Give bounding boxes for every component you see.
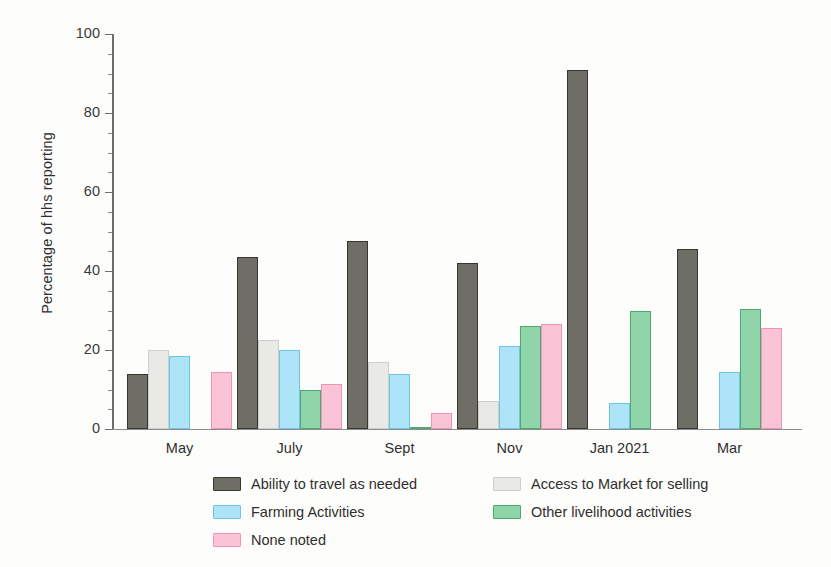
bar xyxy=(127,374,148,429)
y-tick-mark xyxy=(105,429,112,430)
y-tick-label: 100 xyxy=(40,25,100,41)
x-axis-line xyxy=(112,429,802,430)
legend-label: None noted xyxy=(251,532,326,548)
y-tick-minor xyxy=(108,232,112,233)
bar xyxy=(279,350,300,429)
y-tick-label: 80 xyxy=(40,104,100,120)
bar xyxy=(478,401,499,429)
bar xyxy=(740,309,761,429)
bar xyxy=(520,326,541,429)
bar xyxy=(321,384,342,429)
legend-swatch-icon xyxy=(213,505,241,519)
bar xyxy=(148,350,169,429)
legend-label: Other livelihood activities xyxy=(531,504,691,520)
legend-swatch-icon xyxy=(493,477,521,491)
y-tick-minor xyxy=(108,133,112,134)
legend-swatch-icon xyxy=(493,505,521,519)
y-tick-minor xyxy=(108,74,112,75)
bar xyxy=(457,263,478,429)
y-axis-line xyxy=(112,34,114,430)
y-tick-minor xyxy=(108,370,112,371)
y-tick-mark xyxy=(105,34,112,35)
bar xyxy=(499,346,520,429)
y-tick-minor xyxy=(108,390,112,391)
y-tick-minor xyxy=(108,251,112,252)
y-tick-mark xyxy=(105,113,112,114)
y-tick-minor xyxy=(108,291,112,292)
y-tick-minor xyxy=(108,212,112,213)
y-tick-minor xyxy=(108,330,112,331)
bar-chart-figure: Percentage of hhs reporting 020406080100… xyxy=(0,0,831,567)
legend-entry[interactable]: None noted xyxy=(213,532,493,548)
bar xyxy=(541,324,562,429)
legend-swatch-icon xyxy=(213,477,241,491)
bar xyxy=(630,311,651,430)
y-tick-mark xyxy=(105,350,112,351)
bar xyxy=(368,362,389,429)
chart-legend: Ability to travel as neededAccess to Mar… xyxy=(213,470,733,554)
y-tick-label: 20 xyxy=(40,341,100,357)
bar xyxy=(389,374,410,429)
legend-entry[interactable]: Access to Market for selling xyxy=(493,476,733,492)
bar xyxy=(169,356,190,429)
y-tick-label: 0 xyxy=(40,420,100,436)
legend-swatch-icon xyxy=(213,533,241,547)
legend-entry[interactable]: Farming Activities xyxy=(213,504,493,520)
y-tick-minor xyxy=(108,409,112,410)
y-tick-minor xyxy=(108,153,112,154)
legend-label: Access to Market for selling xyxy=(531,476,708,492)
bar xyxy=(300,390,321,430)
bar xyxy=(211,372,232,429)
y-tick-minor xyxy=(108,172,112,173)
bar xyxy=(258,340,279,429)
y-tick-mark xyxy=(105,192,112,193)
y-tick-minor xyxy=(108,311,112,312)
bar xyxy=(761,328,782,429)
legend-label: Ability to travel as needed xyxy=(251,476,417,492)
legend-entry[interactable]: Other livelihood activities xyxy=(493,504,733,520)
bar xyxy=(677,249,698,429)
y-tick-minor xyxy=(108,54,112,55)
bar xyxy=(410,427,431,429)
bar xyxy=(347,241,368,429)
bar xyxy=(567,70,588,429)
legend-label: Farming Activities xyxy=(251,504,365,520)
y-tick-label: 40 xyxy=(40,262,100,278)
plot-area: 020406080100 MayJulySeptNovJan 2021Mar xyxy=(112,34,802,429)
y-tick-label: 60 xyxy=(40,183,100,199)
bar xyxy=(719,372,740,429)
x-tick-label: Mar xyxy=(660,440,800,456)
bar xyxy=(431,413,452,429)
y-tick-minor xyxy=(108,93,112,94)
y-tick-mark xyxy=(105,271,112,272)
bar xyxy=(609,403,630,429)
legend-entry[interactable]: Ability to travel as needed xyxy=(213,476,493,492)
bar xyxy=(237,257,258,429)
